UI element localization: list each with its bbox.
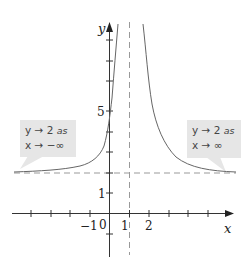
left-callout-line1: y → 2 as <box>25 123 71 138</box>
graph-figure: y x −1 0 1 2 1 5 y → 2 as x → −∞ y → 2 a… <box>0 0 241 261</box>
y-tick-label-1: 1 <box>98 187 106 201</box>
y-axis-label: y <box>97 21 106 36</box>
x-axis-arrow-icon <box>225 210 234 217</box>
x-tick-label-2: 2 <box>145 219 153 233</box>
right-callout-line2: x → ∞ <box>192 138 236 152</box>
y-tick-label-5: 5 <box>97 105 105 119</box>
x-tick-label-neg1: −1 <box>80 219 98 233</box>
left-asymptote-callout: y → 2 as x → −∞ <box>20 120 76 157</box>
x-axis-label: x <box>224 221 232 236</box>
left-callout-line2: x → −∞ <box>25 138 71 152</box>
y-axis-arrow-icon <box>106 22 113 32</box>
right-asymptote-callout: y → 2 as x → ∞ <box>187 120 241 158</box>
x-tick-label-1: 1 <box>121 219 129 233</box>
x-tick-label-0: 0 <box>99 218 107 232</box>
right-callout-line1: y → 2 as <box>192 123 236 138</box>
left-callout-tail <box>20 156 44 169</box>
